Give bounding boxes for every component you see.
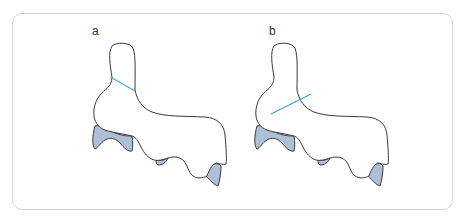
panel-b-diagram — [255, 43, 389, 186]
panel-a-diagram — [93, 43, 227, 186]
diagram-canvas — [0, 0, 467, 219]
